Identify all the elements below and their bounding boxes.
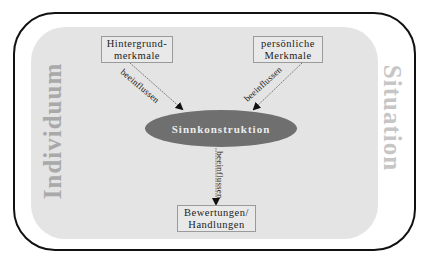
node-bewertungen-line2: Handlungen — [178, 219, 255, 231]
node-persoenlich-line1: persönliche — [254, 38, 322, 50]
node-bewertungen-line1: Bewertungen/ — [178, 207, 255, 219]
node-sinnkonstruktion: Sinnkonstruktion — [145, 110, 297, 147]
edge-label-bewertungen: beeinflussen — [215, 151, 225, 198]
node-sinnkonstruktion-label: Sinnkonstruktion — [172, 123, 271, 135]
node-hintergrund-line1: Hintergrund- — [102, 38, 172, 50]
node-persoenlich-line2: Merkmale — [254, 50, 322, 62]
node-hintergrundmerkmale: Hintergrund- merkmale — [101, 36, 173, 63]
node-persoenliche-merkmale: persönliche Merkmale — [253, 36, 323, 63]
node-hintergrund-line2: merkmale — [102, 50, 172, 62]
node-bewertungen-handlungen: Bewertungen/ Handlungen — [177, 205, 256, 232]
